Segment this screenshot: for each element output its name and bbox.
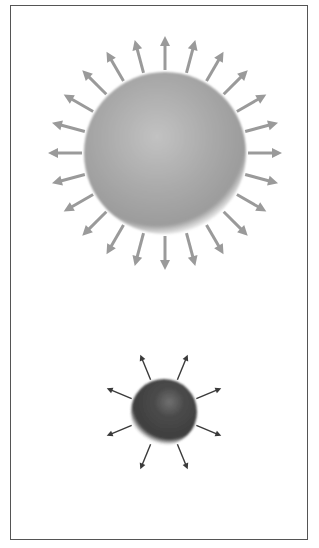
large-star-arrow-icon <box>82 212 106 236</box>
small-star-arrow-icon <box>140 355 151 380</box>
large-star-arrow-icon <box>107 52 124 81</box>
small-star-arrow-icon <box>107 425 132 436</box>
small-star-arrow-icon <box>177 444 188 469</box>
small-star-arrow-icon <box>177 355 188 380</box>
large-star-arrow-icon <box>186 233 197 266</box>
large-star-arrow-icon <box>245 120 278 131</box>
large-star-arrow-icon <box>52 120 85 131</box>
radiation-diagram <box>0 0 319 548</box>
large-star-arrow-icon <box>245 174 278 185</box>
large-star-arrow-icon <box>224 212 248 236</box>
large-star-arrow-icon <box>248 148 282 158</box>
small-star-arrow-icon <box>196 425 221 436</box>
large-star-arrow-icon <box>160 236 170 270</box>
large-star-sphere <box>84 72 246 234</box>
large-star-arrow-icon <box>48 148 82 158</box>
large-star-arrow-icon <box>82 70 106 94</box>
large-star-arrow-icon <box>237 195 266 212</box>
large-star-arrow-icon <box>207 225 224 254</box>
large-star-arrow-icon <box>160 36 170 70</box>
large-star-arrow-icon <box>224 70 248 94</box>
large-star-arrow-icon <box>64 95 93 112</box>
small-star-arrow-icon <box>107 388 132 399</box>
large-star-arrow-icon <box>52 174 85 185</box>
small-star-sphere <box>131 379 197 445</box>
large-star-arrow-icon <box>186 40 197 73</box>
large-star-arrow-icon <box>64 195 93 212</box>
large-star-arrow-icon <box>237 95 266 112</box>
small-star-arrow-icon <box>140 444 151 469</box>
large-star-arrow-icon <box>107 225 124 254</box>
large-star-arrow-icon <box>132 40 143 73</box>
large-star-arrow-icon <box>132 233 143 266</box>
small-star-arrow-icon <box>196 388 221 399</box>
large-star-arrow-icon <box>207 52 224 81</box>
